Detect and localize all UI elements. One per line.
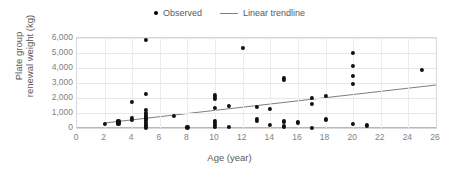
gridline-horizontal: [77, 83, 436, 84]
x-axis-tick-label: 12: [237, 132, 246, 142]
y-axis-tick-label: 5,000: [52, 48, 73, 57]
gridline-vertical: [408, 38, 409, 128]
plot-area: [76, 37, 437, 129]
gridline-horizontal: [77, 113, 436, 114]
x-axis-tick-label: 26: [430, 132, 439, 142]
gridline-vertical: [270, 38, 271, 128]
y-axis-tick-label: 2,000: [52, 93, 73, 102]
x-axis-tick-label: 0: [74, 132, 79, 142]
y-axis-title-line1: Plate group: [13, 15, 24, 97]
gridline-horizontal: [77, 38, 436, 39]
y-axis-tick-label: 1,000: [52, 108, 73, 117]
gridline-vertical: [381, 38, 382, 128]
gridline-vertical: [215, 38, 216, 128]
data-point: [185, 125, 189, 129]
y-axis-tick-label: 4,000: [52, 63, 73, 72]
gridline-vertical: [243, 38, 244, 128]
x-axis-tick-label: 10: [209, 132, 218, 142]
legend-label-observed: Observed: [163, 8, 202, 18]
gridline-vertical: [160, 38, 161, 128]
x-axis-tick-label: 2: [101, 132, 106, 142]
x-axis-tick-label: 18: [320, 132, 329, 142]
legend-item-linear-trendline: Linear trendline: [220, 8, 305, 18]
legend-marker-dot-icon: [154, 11, 158, 15]
x-axis-tick-labels: 02468101214161820222426: [0, 132, 459, 144]
y-axis-tick-label: 0: [68, 123, 73, 132]
data-point: [213, 125, 217, 129]
x-axis-tick-label: 24: [403, 132, 412, 142]
y-axis-title-line2: renewal weight (kg): [24, 15, 35, 97]
legend-label-linear-trendline: Linear trendline: [243, 8, 305, 18]
x-axis-tick-label: 14: [265, 132, 274, 142]
x-axis-tick-label: 22: [375, 132, 384, 142]
x-axis-title: Age (year): [0, 152, 459, 163]
gridline-vertical: [105, 38, 106, 128]
x-axis-tick-label: 4: [129, 132, 134, 142]
scatter-chart: Observed Linear trendline Plate group re…: [0, 0, 459, 179]
data-point: [310, 125, 314, 129]
x-axis-tick-label: 16: [292, 132, 301, 142]
gridline-vertical: [187, 38, 188, 128]
data-point: [227, 125, 231, 129]
y-axis-tick-labels: 01,0002,0003,0004,0005,0006,000: [36, 30, 73, 136]
y-axis-tick-label: 6,000: [52, 33, 73, 42]
data-point: [282, 125, 286, 129]
legend-marker-line-icon: [220, 13, 238, 14]
chart-legend: Observed Linear trendline: [0, 5, 459, 21]
gridline-horizontal: [77, 68, 436, 69]
x-axis-tick-label: 8: [184, 132, 189, 142]
data-point: [144, 125, 148, 129]
legend-item-observed: Observed: [154, 8, 202, 18]
x-axis-tick-label: 6: [156, 132, 161, 142]
gridline-vertical: [298, 38, 299, 128]
x-axis-tick-label: 20: [347, 132, 356, 142]
y-axis-tick-label: 3,000: [52, 78, 73, 87]
gridline-vertical: [326, 38, 327, 128]
gridline-horizontal: [77, 53, 436, 54]
